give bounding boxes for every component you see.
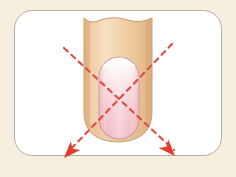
illustration-figure — [0, 0, 236, 177]
figure-canvas — [0, 0, 236, 177]
